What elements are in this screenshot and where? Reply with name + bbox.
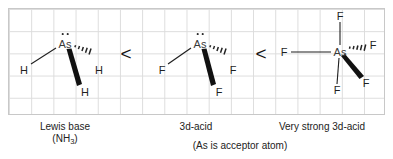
graph-paper-grid <box>8 8 385 115</box>
substituent-asf5-top: F <box>337 11 344 22</box>
substituent-asf5-bottom: F <box>334 85 341 96</box>
central-atom-asf3: As <box>194 39 207 50</box>
caption-very-strong-3d-acid: Very strong 3d-acid <box>279 121 365 133</box>
substituent-asf5-left: F <box>281 47 288 58</box>
caption-3d-acid: 3d-acid <box>180 121 213 133</box>
footnote-acceptor-atom: (As is acceptor atom) <box>193 140 287 152</box>
formula-suffix: ) <box>74 133 77 144</box>
diagram-canvas: As H H H < As F F F < As F F F F F Lewis… <box>0 0 393 159</box>
central-atom-asf5: As <box>334 47 347 58</box>
substituent-ash3-left: H <box>20 65 28 76</box>
substituent-ash3-bottom: H <box>81 87 89 98</box>
formula-subscript: 3 <box>70 137 74 146</box>
comparison-operator-1: < <box>120 44 131 63</box>
lone-pair-dots-ash3 <box>62 33 69 35</box>
substituent-asf5-right: F <box>370 40 377 51</box>
substituent-asf5-lower-right: F <box>363 78 370 89</box>
comparison-operator-2: < <box>255 44 266 63</box>
caption-lewis-base: Lewis base (NH3) <box>40 121 90 146</box>
caption-lewis-base-line1: Lewis base <box>40 121 90 133</box>
lone-pair-dots-asf3 <box>197 33 204 35</box>
substituent-ash3-right: H <box>95 65 103 76</box>
substituent-asf3-left: F <box>159 65 166 76</box>
caption-lewis-base-formula: (NH3) <box>40 133 90 146</box>
substituent-asf3-bottom: F <box>216 87 223 98</box>
formula-prefix: (NH <box>52 133 70 144</box>
central-atom-ash3: As <box>59 39 72 50</box>
substituent-asf3-right: F <box>230 65 237 76</box>
